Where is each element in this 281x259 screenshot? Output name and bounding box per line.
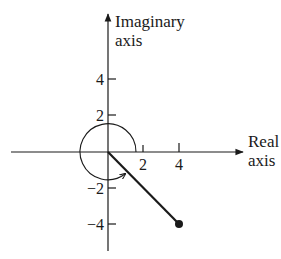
real-axis-label-line2: axis bbox=[248, 151, 275, 170]
complex-plane-diagram: 2 4 4 2 −2 −4 Imaginary axis Real axis bbox=[0, 0, 281, 259]
imaginary-axis-label-line1: Imaginary bbox=[115, 12, 185, 31]
x-tick-label-4: 4 bbox=[175, 156, 183, 173]
y-tick-label-neg2: −2 bbox=[87, 180, 104, 197]
y-tick-label-2: 2 bbox=[96, 107, 104, 124]
y-tick-label-4: 4 bbox=[96, 71, 104, 88]
imaginary-axis-label-line2: axis bbox=[115, 31, 142, 50]
vector-endpoint-dot bbox=[175, 220, 183, 228]
x-tick-label-2: 2 bbox=[139, 156, 147, 173]
real-axis-label-line1: Real bbox=[248, 132, 279, 151]
y-tick-label-neg4: −4 bbox=[87, 216, 104, 233]
